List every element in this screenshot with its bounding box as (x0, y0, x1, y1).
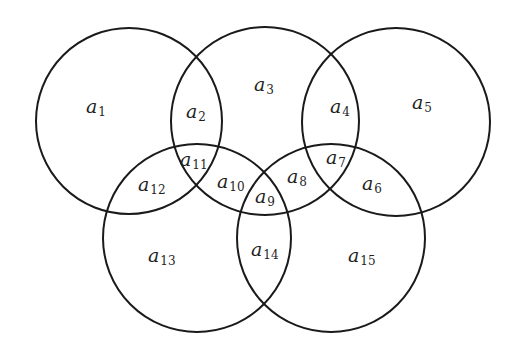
region-label-base: a (138, 173, 149, 195)
region-label-subscript: 7 (338, 156, 346, 170)
region-label-subscript: 14 (263, 248, 279, 262)
region-label-subscript: 15 (360, 254, 375, 268)
region-label-base: a (86, 95, 97, 117)
region-label-subscript: 3 (266, 83, 274, 97)
region-label-base: a (326, 146, 337, 168)
region-label-subscript: 4 (342, 105, 350, 119)
region-label-base: a (412, 91, 423, 113)
region-label-subscript: 8 (299, 175, 307, 189)
region-label-subscript: 6 (374, 182, 382, 196)
region-label-base: a (330, 95, 341, 117)
region-label-base: a (287, 165, 298, 187)
region-label-base: a (180, 148, 191, 170)
region-label-base: a (255, 185, 266, 207)
region-label-subscript: 10 (229, 180, 244, 194)
region-label-base: a (254, 73, 265, 95)
region-label-subscript: 1 (98, 105, 106, 119)
region-label-subscript: 9 (267, 195, 275, 209)
region-label-subscript: 5 (424, 101, 432, 115)
region-label-base: a (251, 238, 262, 260)
region-label-subscript: 11 (192, 158, 207, 172)
region-label-subscript: 12 (150, 183, 165, 197)
region-label-subscript: 2 (198, 110, 206, 124)
region-label-base: a (348, 244, 359, 266)
venn-diagram: a1a2a3a4a5a6a7a8a9a10a11a12a13a14a15 (0, 0, 518, 351)
region-label-subscript: 13 (160, 254, 175, 268)
region-label-base: a (217, 170, 228, 192)
region-label-base: a (362, 172, 373, 194)
region-label-base: a (148, 244, 159, 266)
region-label-base: a (186, 100, 197, 122)
